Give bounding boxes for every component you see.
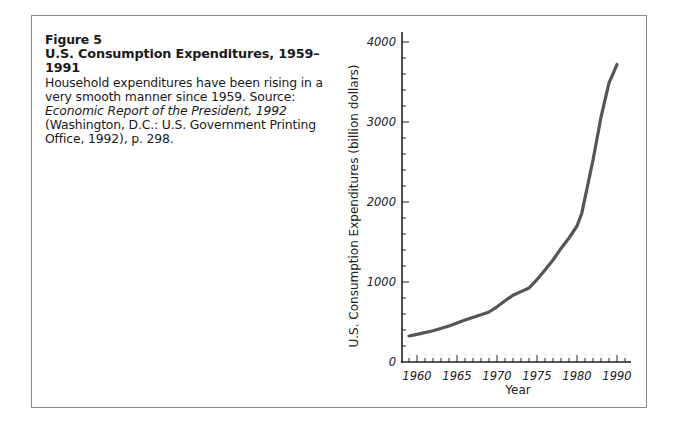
x-tick-label: 1990 [602, 369, 631, 383]
y-tick-label: 2000 [367, 195, 396, 209]
x-tick-label: 1965 [442, 369, 471, 383]
chart-axes [401, 32, 631, 363]
y-tick-label: 1000 [367, 275, 396, 289]
y-axis-title: U.S. Consumption Expenditures (billion d… [347, 64, 361, 347]
y-tick-label: 0 [389, 355, 396, 369]
x-tick-label: 1975 [522, 369, 551, 383]
y-tick-label: 3000 [367, 115, 396, 129]
line-chart: 0100020003000400019601965197019751980199… [0, 0, 678, 430]
x-tick-label: 1960 [402, 369, 431, 383]
x-tick-label: 1970 [482, 369, 511, 383]
y-tick-label: 4000 [367, 35, 396, 49]
chart-ticks [402, 42, 625, 362]
x-axis-title: Year [504, 383, 530, 397]
x-tick-label: 1980 [562, 369, 591, 383]
chart-tick-labels: 0100020003000400019601965197019751980199… [367, 35, 632, 383]
consumption-line [409, 64, 617, 336]
